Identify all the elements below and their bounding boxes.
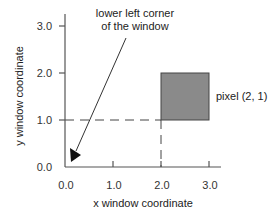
annotation-line-1: lower left corner xyxy=(96,7,175,19)
x-tick-label: 2.0 xyxy=(154,179,169,191)
annotation-arrow-line xyxy=(76,38,126,151)
y-tick-label: 2.0 xyxy=(37,67,52,79)
x-ticks xyxy=(113,161,209,167)
arrowhead-icon xyxy=(70,148,81,162)
y-axis-label: y window coordinate xyxy=(13,46,25,146)
pixel-square xyxy=(161,73,209,120)
y-tick-label: 0.0 xyxy=(37,161,52,173)
y-ticks xyxy=(59,26,65,120)
pixel-label: pixel (2, 1) xyxy=(216,90,267,102)
y-tick-label: 3.0 xyxy=(37,20,52,32)
x-axis-label: x window coordinate xyxy=(93,197,193,209)
x-tick-label: 0.0 xyxy=(58,179,73,191)
annotation-line-2: of the window xyxy=(101,20,168,32)
x-tick-label: 3.0 xyxy=(202,179,217,191)
y-tick-label: 1.0 xyxy=(37,114,52,126)
x-tick-label: 1.0 xyxy=(106,179,121,191)
window-coordinates-diagram: 0.0 1.0 2.0 3.0 0.0 1.0 2.0 3.0 x window… xyxy=(0,0,274,218)
